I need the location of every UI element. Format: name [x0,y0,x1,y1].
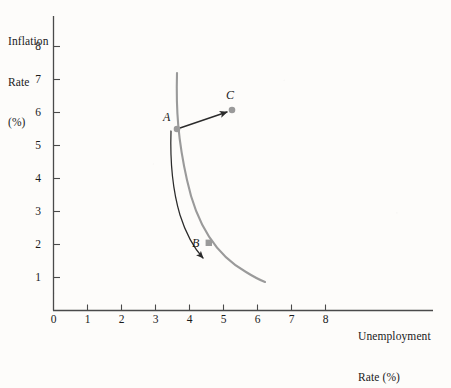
y-axis-ticks [54,47,61,278]
x-tick-label-1: 1 [78,313,98,325]
x-tick-label-8: 8 [316,313,336,325]
y-tick-label-3: 3 [28,205,48,217]
x-tick-label-2: 2 [112,313,132,325]
y-tick-label-8: 8 [28,40,48,52]
y-tick-label-6: 6 [28,106,48,118]
phillips-curve-line [177,73,265,282]
x-axis-title-line1: Unemployment [358,330,431,344]
y-axis-title-line3: (%) [8,116,49,130]
x-axis-ticks [88,305,326,311]
x-tick-label-6: 6 [248,313,268,325]
x-axis-title-line2: Rate (%) [358,371,431,385]
y-tick-label-4: 4 [28,172,48,184]
x-tick-label-7: 7 [282,313,302,325]
point-label-c: C [226,88,234,103]
axes [53,16,433,311]
point-label-b: B [192,236,199,251]
point-label-a: A [163,110,170,125]
y-tick-label-1: 1 [28,271,48,283]
x-tick-label-5: 5 [214,313,234,325]
y-tick-label-2: 2 [28,238,48,250]
x-tick-label-0: 0 [44,313,64,325]
x-axis-title: Unemployment Rate (%) [358,303,431,388]
arrow-a-to-c [180,112,227,128]
x-tick-label-4: 4 [180,313,200,325]
y-tick-label-5: 5 [28,139,48,151]
marker-point-b [206,240,212,246]
marker-point-c [229,107,236,114]
y-tick-label-7: 7 [28,73,48,85]
x-tick-label-3: 3 [146,313,166,325]
marker-point-a [174,126,181,133]
